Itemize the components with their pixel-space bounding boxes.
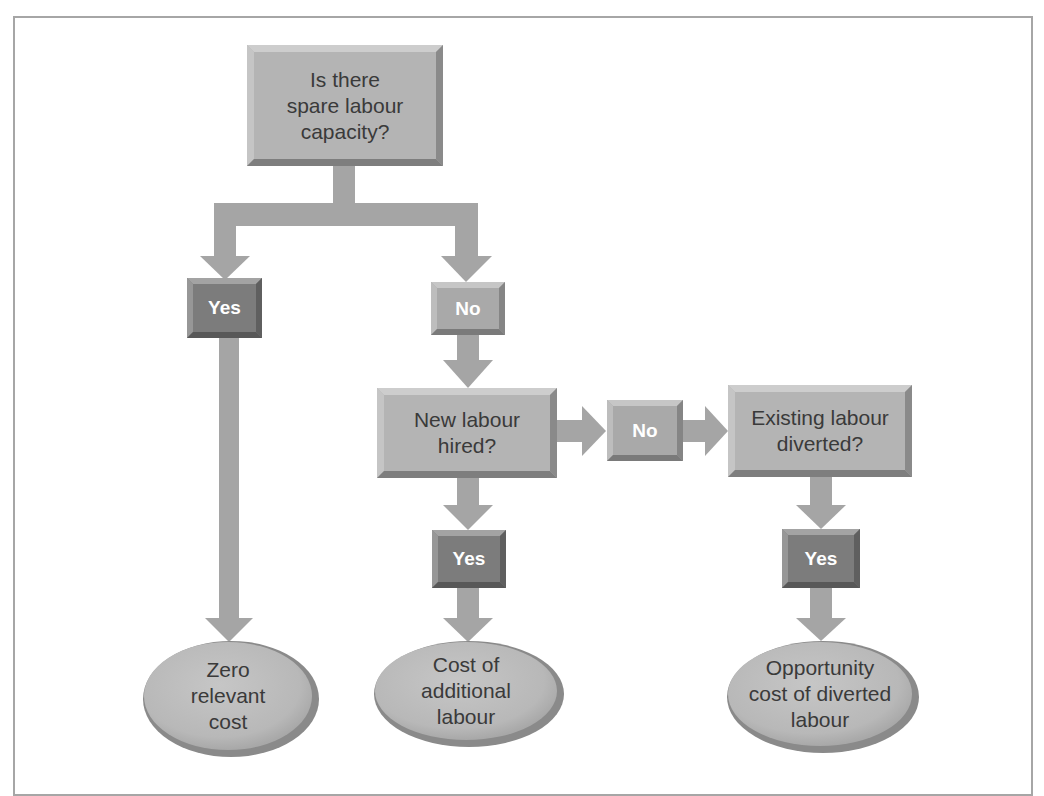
opportunity-cost-ellipse	[727, 641, 919, 753]
new-labour-right-stem	[557, 420, 585, 442]
arrow-to-existing-labour-icon	[705, 406, 728, 456]
start-stem	[333, 166, 355, 206]
branch-bar	[214, 203, 478, 226]
yes-2-box	[432, 530, 506, 588]
existing-labour-down-stem	[810, 477, 832, 507]
arrow-to-yes-1-icon	[200, 256, 250, 280]
arrow-to-yes-3-icon	[796, 505, 846, 529]
start-box	[247, 45, 443, 166]
no-1-box	[431, 282, 505, 335]
branch-right-leg	[455, 203, 478, 258]
yes-3-box	[782, 529, 860, 588]
arrow-to-opportunity-cost-icon	[796, 618, 846, 641]
arrow-to-yes-2-icon	[443, 505, 493, 530]
no-2-right-stem	[683, 420, 708, 442]
branch-left-leg	[214, 203, 236, 258]
existing-labour-box	[728, 385, 912, 477]
yes-1-stem	[219, 338, 239, 620]
no-2-box	[607, 400, 683, 461]
yes-2-stem	[457, 588, 479, 620]
arrow-to-new-labour-icon	[443, 360, 493, 388]
yes-3-stem	[810, 588, 832, 620]
no-1-stem	[457, 335, 479, 363]
new-labour-box	[377, 388, 557, 478]
arrow-to-additional-cost-icon	[443, 618, 493, 642]
arrow-to-no-1-icon	[441, 256, 492, 282]
arrow-to-zero-cost-icon	[205, 618, 253, 642]
arrow-to-no-2-icon	[582, 406, 606, 456]
new-labour-down-stem	[457, 478, 479, 508]
yes-1-box	[187, 278, 262, 338]
additional-cost-ellipse	[374, 641, 564, 747]
zero-cost-ellipse	[143, 641, 319, 757]
